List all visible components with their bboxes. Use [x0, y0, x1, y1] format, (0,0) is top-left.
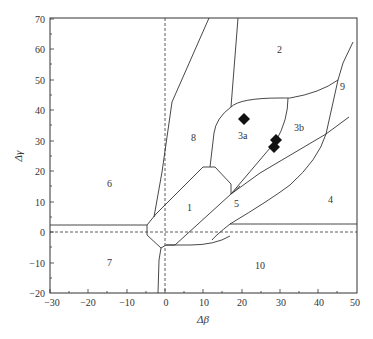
svg-text:3b: 3b — [294, 122, 304, 133]
svg-text:40: 40 — [35, 105, 45, 116]
svg-text:7: 7 — [107, 257, 112, 268]
svg-text:40: 40 — [314, 297, 324, 308]
region-labels: 1 2 3a 3b 4 5 6 7 8 9 10 — [107, 44, 345, 271]
svg-text:−20: −20 — [80, 297, 96, 308]
svg-text:60: 60 — [35, 44, 45, 55]
svg-text:30: 30 — [35, 136, 45, 147]
y-axis-ticks — [50, 19, 54, 278]
svg-text:20: 20 — [237, 297, 247, 308]
svg-text:10: 10 — [35, 197, 45, 208]
svg-text:20: 20 — [35, 166, 45, 177]
svg-text:50: 50 — [350, 297, 360, 308]
svg-text:5: 5 — [234, 198, 239, 209]
svg-text:8: 8 — [191, 132, 196, 143]
svg-text:−10: −10 — [29, 258, 45, 269]
svg-text:−20: −20 — [29, 288, 45, 299]
svg-text:9: 9 — [340, 81, 345, 92]
svg-text:70: 70 — [35, 14, 45, 25]
y-tick-labels: 70 60 50 40 30 20 10 0 −10 −20 — [29, 14, 45, 299]
svg-text:3a: 3a — [238, 130, 248, 141]
data-point-diamond — [238, 113, 250, 125]
svg-text:10: 10 — [199, 297, 209, 308]
svg-text:0: 0 — [40, 227, 45, 238]
svg-text:30: 30 — [276, 297, 286, 308]
svg-text:−10: −10 — [119, 297, 135, 308]
svg-text:10: 10 — [255, 260, 265, 271]
svg-text:1: 1 — [187, 202, 192, 213]
plot-frame — [50, 18, 357, 293]
y-axis-title: Δγ — [12, 150, 24, 162]
phase-boundaries — [50, 18, 357, 293]
x-axis-ticks — [50, 289, 337, 293]
phase-diagram: −30 −20 −10 0 10 20 30 40 50 70 60 50 40… — [0, 0, 373, 339]
x-tick-labels: −30 −20 −10 0 10 20 30 40 50 — [44, 297, 360, 308]
svg-text:6: 6 — [107, 178, 112, 189]
x-axis-title: Δβ — [196, 313, 209, 325]
svg-text:2: 2 — [277, 44, 282, 55]
svg-text:4: 4 — [328, 194, 333, 205]
svg-text:50: 50 — [35, 75, 45, 86]
svg-text:0: 0 — [164, 297, 169, 308]
svg-text:−30: −30 — [44, 297, 60, 308]
